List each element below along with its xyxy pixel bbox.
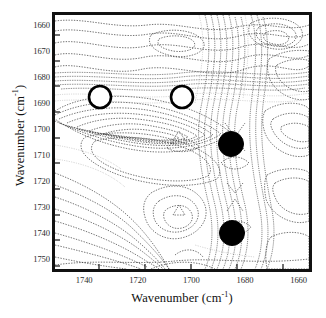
x-axis-tick-label: 1740 [62,275,106,285]
y-axis-tick-label: 1680 [4,72,50,82]
y-axis-tick-label: 1740 [4,228,50,238]
open-circle-marker-1 [89,86,111,108]
y-axis-tick-label: 1720 [4,176,50,186]
plot-area [52,12,312,272]
contour-canvas [55,15,309,269]
y-axis-tick-label: 1660 [4,20,50,30]
y-axis-tick-labels: 1660167016801690170017101720173017401750 [0,0,50,318]
x-axis-title-close: ) [228,291,232,305]
x-axis-title-text: Wavenumber (cm [131,291,221,305]
x-axis-title: Wavenumber (cm-1) [52,291,312,306]
filled-circle-marker-2 [220,221,245,246]
contour-lines-group [55,15,309,269]
x-axis-tick-label: 1720 [116,275,160,285]
marker-group [89,86,245,246]
y-axis-tick-label: 1710 [4,150,50,160]
y-axis-tick-label: 1730 [4,202,50,212]
x-axis-tick-label: 1700 [169,275,213,285]
open-circle-marker-2 [171,86,193,108]
contour-plot-figure: Wavenumber (cm-1) 1660167016801690170017… [0,0,326,318]
y-axis-tick-label: 1700 [4,124,50,134]
y-axis-tick-label: 1690 [4,98,50,108]
filled-circle-marker-1 [219,132,244,157]
y-axis-tick-label: 1750 [4,254,50,264]
x-axis-tick-label: 1680 [223,275,267,285]
x-axis-tick-label: 1660 [277,275,321,285]
x-axis-tick-labels: 17401720170016801660 [0,275,326,289]
y-axis-tick-label: 1670 [4,46,50,56]
